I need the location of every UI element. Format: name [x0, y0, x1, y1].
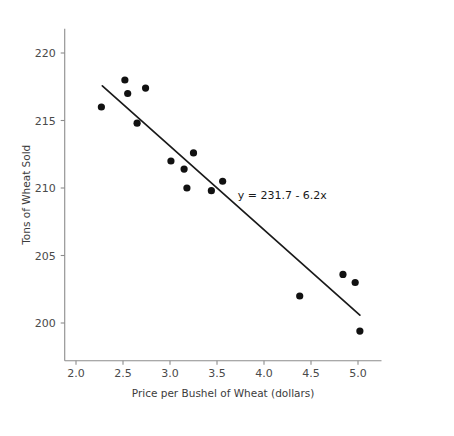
y-tick-label: 220 [35, 47, 56, 60]
data-point [296, 292, 303, 299]
data-point [121, 76, 128, 83]
x-tick-label: 5.0 [349, 367, 367, 380]
data-point [183, 184, 190, 191]
data-point [339, 271, 346, 278]
y-axis-ticks: 200205210215220 [35, 47, 65, 330]
x-tick-label: 2.0 [67, 367, 85, 380]
y-tick-label: 200 [35, 317, 56, 330]
data-point [142, 85, 149, 92]
x-axis-title: Price per Bushel of Wheat (dollars) [132, 387, 315, 399]
data-point [181, 166, 188, 173]
x-tick-label: 2.5 [114, 367, 132, 380]
data-point [356, 328, 363, 335]
data-point [124, 90, 131, 97]
scatter-plot-figure: 2.02.53.03.54.04.55.0 200205210215220 y … [0, 0, 454, 436]
y-axis-title: Tons of Wheat Sold [20, 145, 32, 246]
x-axis-ticks: 2.02.53.03.54.04.55.0 [67, 361, 367, 380]
data-point [134, 120, 141, 127]
axes-spines [65, 29, 382, 361]
data-point [219, 178, 226, 185]
data-point [208, 187, 215, 194]
data-point [352, 279, 359, 286]
x-tick-label: 4.0 [255, 367, 273, 380]
data-points [98, 76, 364, 334]
y-tick-label: 215 [35, 115, 56, 128]
x-tick-label: 3.5 [208, 367, 226, 380]
plot-canvas: 2.02.53.03.54.04.55.0 200205210215220 y … [0, 0, 454, 436]
data-point [167, 157, 174, 164]
y-tick-label: 210 [35, 182, 56, 195]
regression-equation-label: y = 231.7 - 6.2x [238, 189, 328, 202]
x-tick-label: 3.0 [161, 367, 179, 380]
data-point [98, 103, 105, 110]
data-point [190, 149, 197, 156]
y-tick-label: 205 [35, 250, 56, 263]
x-tick-label: 4.5 [302, 367, 320, 380]
